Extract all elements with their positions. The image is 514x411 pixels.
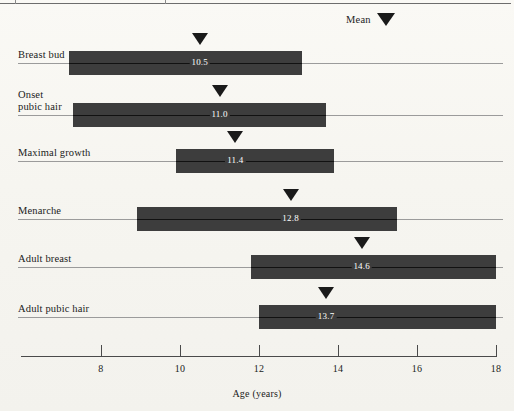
row-category-label-line: pubic hair bbox=[18, 101, 62, 113]
x-axis-tick bbox=[338, 345, 339, 356]
row-category-label-line: Adult breast bbox=[18, 253, 71, 265]
bar-center-rule bbox=[137, 219, 398, 220]
mean-marker-triangle-icon bbox=[212, 85, 228, 97]
x-axis-tick-label: 18 bbox=[491, 363, 502, 374]
row-category-label: Onsetpubic hair bbox=[18, 89, 62, 112]
mean-marker-triangle-icon bbox=[227, 131, 243, 143]
row-category-label: Adult pubic hair bbox=[18, 303, 89, 315]
mean-value-label: 13.7 bbox=[316, 311, 337, 322]
mean-value-label: 14.6 bbox=[351, 261, 372, 272]
row-category-label-line: Maximal growth bbox=[18, 147, 90, 159]
mean-marker-triangle-icon bbox=[192, 33, 208, 45]
bar-center-rule bbox=[251, 267, 496, 268]
x-axis-tick-label: 14 bbox=[333, 363, 344, 374]
mean-value-label: 10.5 bbox=[189, 57, 210, 68]
row-category-label: Maximal growth bbox=[18, 147, 90, 159]
x-axis-tick-label: 16 bbox=[412, 363, 423, 374]
mean-value-label: 11.0 bbox=[209, 109, 229, 120]
x-axis-tick bbox=[417, 345, 418, 356]
x-axis-tick-label: 10 bbox=[175, 363, 186, 374]
row-category-label: Breast bud bbox=[18, 49, 65, 61]
x-axis-tick-label: 12 bbox=[254, 363, 265, 374]
x-axis-title: Age (years) bbox=[0, 388, 514, 399]
figure-canvas: Mean 10.5Breast bud11.0Onsetpubic hair11… bbox=[0, 0, 514, 411]
bar-center-rule bbox=[73, 115, 326, 116]
mean-value-label: 11.4 bbox=[225, 155, 245, 166]
row-category-label: Adult breast bbox=[18, 253, 71, 265]
bar-center-rule bbox=[259, 317, 496, 318]
mean-marker-triangle-icon bbox=[283, 189, 299, 201]
x-axis-tick bbox=[101, 345, 102, 356]
mean-marker-triangle-icon bbox=[318, 287, 334, 299]
bar-center-rule bbox=[176, 161, 334, 162]
bar-center-rule bbox=[69, 63, 302, 64]
mean-value-label: 12.8 bbox=[280, 213, 301, 224]
row-category-label: Menarche bbox=[18, 205, 61, 217]
x-axis-tick bbox=[259, 345, 260, 356]
x-axis-tick bbox=[496, 345, 497, 356]
row-category-label-line: Menarche bbox=[18, 205, 61, 217]
x-axis-line bbox=[21, 356, 497, 357]
row-category-label-line: Onset bbox=[18, 89, 62, 101]
row-category-label-line: Adult pubic hair bbox=[18, 303, 89, 315]
mean-marker-triangle-icon bbox=[354, 237, 370, 249]
x-axis-tick-label: 8 bbox=[98, 363, 103, 374]
row-category-label-line: Breast bud bbox=[18, 49, 65, 61]
x-axis-tick bbox=[180, 345, 181, 356]
plot-area: 10.5Breast bud11.0Onsetpubic hair11.4Max… bbox=[0, 0, 514, 411]
